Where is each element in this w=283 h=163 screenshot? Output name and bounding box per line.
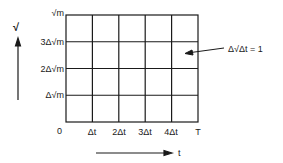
y-tick-label: Δ√m [8, 90, 64, 100]
y-tick-label: 2Δ√m [8, 64, 64, 74]
annotation-arrow [185, 48, 224, 55]
y-tick-label: √m [8, 8, 64, 18]
x-tick-label: Δt [77, 127, 107, 137]
x-tick-label: 4Δt [156, 127, 186, 137]
y-axis-label: √ [13, 22, 19, 32]
x-axis-arrow [96, 151, 172, 156]
x-axis-label: t [178, 148, 181, 158]
annotation-label: Δ√Δt = 1 [228, 44, 263, 54]
y-tick-label: 3Δ√m [8, 37, 64, 47]
x-tick-label: T [183, 127, 213, 137]
grid-svg [0, 0, 283, 163]
origin-label: 0 [57, 126, 62, 136]
grid-lines [66, 15, 198, 122]
grid-diagram: √ √m 3Δ√m 2Δ√m Δ√m 0 Δt 2Δt 3Δt 4Δt T t … [0, 0, 283, 163]
